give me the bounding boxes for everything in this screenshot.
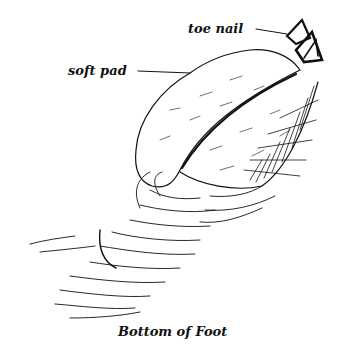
pad-crease [182, 74, 296, 168]
toe-nail-lower [296, 32, 322, 62]
soft-pad-leader-line [138, 71, 190, 73]
foot-illustration [0, 0, 351, 349]
toe-nail-upper [287, 20, 310, 44]
toe-nail-leader-line [256, 29, 287, 34]
soft-pad-label: soft pad [68, 63, 127, 78]
figure-caption: Bottom of Foot [118, 324, 227, 339]
leg-fur [30, 172, 275, 318]
soft-pad-outline [136, 50, 300, 187]
pad-texture [160, 76, 290, 170]
toe-nail-label: toe nail [188, 21, 243, 36]
